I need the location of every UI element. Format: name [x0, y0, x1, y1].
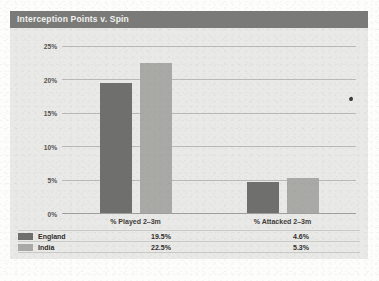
bar-group: [62, 46, 209, 213]
x-axis-labels: % Played 2–3m% Attacked 2–3m: [62, 218, 356, 230]
table-bottom-rule: [18, 252, 360, 253]
y-axis-tick-label: 5%: [47, 177, 57, 184]
data-table: England 19.5% 4.6% India 22.5% 5.3%: [10, 230, 368, 259]
legend-swatch-england: [18, 233, 33, 240]
chart-panel: Interception Points v. Spin 0%5%10%15%20…: [10, 11, 368, 259]
legend-label-england: England: [38, 233, 66, 240]
chart-title-bar: Interception Points v. Spin: [10, 11, 368, 28]
table-cell-india-attacked: 5.3%: [256, 244, 346, 251]
table-cell-england-played: 19.5%: [116, 233, 206, 240]
y-axis-tick-label: 20%: [44, 76, 57, 83]
bar-england-1: [247, 182, 279, 213]
y-axis-tick-label: 0%: [47, 211, 57, 218]
bar-group: [209, 46, 356, 213]
legend-label-india: India: [38, 244, 54, 251]
x-axis-category-label: % Attacked 2–3m: [209, 218, 356, 230]
table-cell-england-attacked: 4.6%: [256, 233, 346, 240]
legend-swatch-india: [18, 244, 33, 251]
x-axis-category-label: % Played 2–3m: [62, 218, 209, 230]
y-axis-tick-label: 25%: [44, 43, 57, 50]
bar-groups: [62, 46, 356, 213]
y-axis-tick-label: 10%: [44, 143, 57, 150]
y-axis-tick-label: 15%: [44, 110, 57, 117]
bar-india-1: [287, 178, 319, 213]
axis-baseline: 0%: [62, 213, 356, 214]
bar-england-0: [100, 83, 132, 213]
page-title: Interception Points v. Spin: [17, 14, 129, 24]
table-cell-india-played: 22.5%: [116, 244, 206, 251]
plot-area: 0%5%10%15%20%25% % Played 2–3m% Attacked…: [10, 28, 368, 228]
bar-india-0: [140, 63, 172, 213]
